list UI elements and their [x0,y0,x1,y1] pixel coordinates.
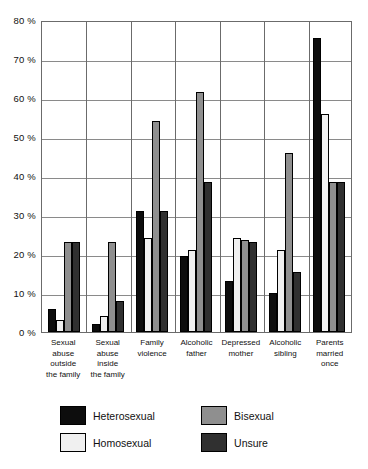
bar[interactable] [144,238,152,332]
x-axis-label: Familyviolence [130,338,174,394]
legend: HeterosexualBisexualHomosexualUnsure [60,406,310,452]
y-tick-label: 30 % [0,211,36,221]
bar[interactable] [321,114,329,332]
x-axis-label: Depressedmother [219,338,263,394]
x-axis-label: Sexualabuseinsidethe family [85,338,129,394]
bar[interactable] [72,242,80,332]
bar-group [174,22,218,332]
legend-swatch-icon [60,433,86,452]
bar[interactable] [64,242,72,332]
bar-group [130,22,174,332]
bar[interactable] [188,250,196,332]
y-tick-label: 0 % [0,328,36,338]
bar[interactable] [277,250,285,332]
y-tick-label: 20 % [0,250,36,260]
legend-swatch-icon [201,433,227,452]
plot-area [41,21,352,333]
y-tick-label: 60 % [0,94,36,104]
bar[interactable] [249,242,257,332]
bar-chart: 80 %70 %60 %50 %40 %30 %20 %10 %0 % Sexu… [0,0,368,469]
bar[interactable] [92,324,100,332]
legend-swatch-icon [201,406,227,425]
x-axis-label: Alcoholicsibling [263,338,307,394]
bar[interactable] [180,256,188,332]
bar[interactable] [329,182,337,332]
bar[interactable] [241,240,249,332]
legend-label: Bisexual [234,410,274,422]
bar-group [263,22,307,332]
bar[interactable] [337,182,345,332]
y-tick-label: 10 % [0,289,36,299]
bar[interactable] [285,153,293,332]
x-axis-label: Sexualabuseoutsidethe family [41,338,85,394]
bar[interactable] [204,182,212,332]
bar[interactable] [152,121,160,332]
legend-swatch-icon [60,406,86,425]
bar[interactable] [108,242,116,332]
x-axis-label: Parentsmarriedonce [308,338,352,394]
legend-item[interactable]: Bisexual [201,406,310,425]
y-tick-label: 40 % [0,172,36,182]
bar-group [86,22,130,332]
bar[interactable] [313,38,321,332]
legend-label: Unsure [234,437,268,449]
bar[interactable] [269,293,277,332]
x-axis-category-labels: Sexualabuseoutsidethe familySexualabusei… [41,338,352,394]
legend-item[interactable]: Heterosexual [60,406,191,425]
bar-groups [42,22,351,332]
bar-group [219,22,263,332]
bar[interactable] [56,320,64,332]
y-tick-label: 50 % [0,133,36,143]
bar[interactable] [233,238,241,332]
legend-label: Heterosexual [93,410,155,422]
bar[interactable] [225,281,233,332]
bar[interactable] [48,309,56,332]
bar[interactable] [160,211,168,332]
bar-group [307,22,351,332]
legend-item[interactable]: Homosexual [60,433,191,452]
bar[interactable] [196,92,204,332]
bar-group [42,22,86,332]
legend-item[interactable]: Unsure [201,433,310,452]
bar[interactable] [136,211,144,332]
legend-label: Homosexual [93,437,151,449]
y-axis: 80 %70 %60 %50 %40 %30 %20 %10 %0 % [0,14,36,334]
x-axis-label: Alcoholicfather [174,338,218,394]
bar[interactable] [100,316,108,332]
bar[interactable] [116,301,124,332]
bar[interactable] [293,272,301,332]
y-tick-label: 80 % [0,16,36,26]
y-tick-label: 70 % [0,55,36,65]
